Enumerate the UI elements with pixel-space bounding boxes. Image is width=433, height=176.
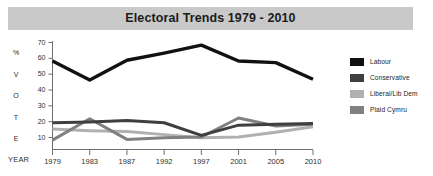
legend-item-labour: Labour: [350, 56, 430, 67]
legend-item-liberal-lib-dem: Liberal/Lib Dem: [350, 88, 430, 99]
data-series-group: [53, 45, 314, 140]
x-tick-label: 1997: [193, 157, 210, 166]
legend-item-label: Plaid Cymru: [370, 106, 407, 113]
x-axis-ticks: 19791983198719921997200120052010: [44, 150, 321, 166]
x-tick-label: 2001: [230, 157, 247, 166]
legend-swatch-icon: [350, 106, 364, 114]
legend-item-label: Liberal/Lib Dem: [370, 90, 418, 97]
y-tick-label: 10: [38, 134, 46, 141]
y-tick-label: 40: [38, 86, 46, 93]
legend-item-plaid-cymru: Plaid Cymru: [350, 104, 430, 115]
legend-swatch-icon: [350, 90, 364, 98]
legend-item-label: Labour: [370, 58, 391, 65]
x-tick-label: 1987: [119, 157, 136, 166]
y-tick-label: 20: [38, 118, 46, 125]
legend-swatch-icon: [350, 58, 364, 66]
legend-swatch-icon: [350, 74, 364, 82]
x-tick-label: 2010: [305, 157, 322, 166]
y-tick-label: 30: [38, 102, 46, 109]
legend-item-label: Conservative: [370, 74, 410, 81]
y-axis-ticks: 10203040506070: [38, 39, 53, 141]
chart-legend: Labour Conservative Liberal/Lib Dem Plai…: [350, 56, 430, 120]
x-tick-label: 1983: [81, 157, 98, 166]
y-tick-label: 70: [38, 39, 46, 46]
x-tick-label: 1992: [156, 157, 173, 166]
legend-item-conservative: Conservative: [350, 72, 430, 83]
y-tick-label: 60: [38, 54, 46, 61]
chart-figure: Electoral Trends 1979 - 2010 % V O T E Y…: [0, 0, 433, 176]
x-tick-label: 2005: [267, 157, 284, 166]
y-tick-label: 50: [38, 70, 46, 77]
x-tick-label: 1979: [44, 157, 61, 166]
data-series-line: [53, 45, 314, 80]
